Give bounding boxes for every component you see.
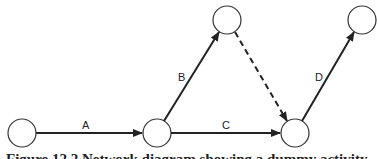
- edge-b: [164, 32, 219, 121]
- node-4: [281, 119, 309, 147]
- figure-caption: Figure 12.2 Network diagram showing a du…: [6, 151, 367, 159]
- label-d: D: [315, 71, 323, 83]
- node-3: [213, 6, 241, 34]
- node-1: [8, 119, 36, 147]
- edge-d: [302, 32, 354, 121]
- node-5: [348, 6, 376, 34]
- node-2: [143, 119, 171, 147]
- label-b: B: [178, 71, 185, 83]
- edge-dummy: [235, 32, 287, 121]
- label-a: A: [82, 119, 90, 131]
- network-diagram: A B C D: [0, 0, 378, 159]
- label-c: C: [222, 119, 230, 131]
